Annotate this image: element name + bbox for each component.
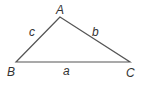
vertex-label-b: B: [7, 65, 15, 79]
vertex-label-c: C: [126, 66, 135, 80]
side-label-a: a: [63, 64, 70, 78]
triangle-diagram: A c b B a C: [0, 0, 146, 91]
side-label-c: c: [29, 25, 35, 39]
triangle-shape: [16, 17, 130, 62]
side-label-b: b: [92, 25, 99, 39]
vertex-label-a: A: [55, 3, 64, 17]
